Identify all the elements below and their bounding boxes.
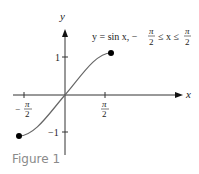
svg-text:π: π — [25, 99, 30, 109]
svg-text:y = sin x, −: y = sin x, − — [92, 31, 138, 42]
endpoint-left — [16, 133, 22, 139]
svg-text:2: 2 — [149, 37, 154, 47]
y-axis-label: y — [59, 10, 65, 22]
svg-text:2: 2 — [102, 109, 107, 119]
svg-text:π: π — [185, 26, 190, 36]
y-tick-label-1: 1 — [55, 52, 60, 63]
x-axis-label: x — [185, 88, 191, 100]
endpoint-right — [108, 50, 114, 56]
svg-text:−: − — [15, 104, 20, 114]
y-axis-arrow-icon — [62, 29, 68, 37]
svg-text:π: π — [149, 26, 154, 36]
sine-graph: y x 1 −1 π 2 − π 2 y = sin x, − π 2 ≤ x … — [0, 0, 199, 174]
svg-text:2: 2 — [185, 37, 190, 47]
figure-caption: Figure 1 — [12, 152, 60, 166]
y-tick-label-neg1: −1 — [48, 127, 59, 138]
x-axis-arrow-icon — [175, 92, 183, 98]
x-tick-label-pi-2: π 2 — [101, 99, 109, 119]
svg-text:≤ x ≤: ≤ x ≤ — [158, 31, 179, 42]
svg-text:π: π — [102, 99, 107, 109]
equation-label: y = sin x, − π 2 ≤ x ≤ π 2 — [92, 26, 191, 47]
x-tick-label-neg-pi-2: − π 2 — [15, 99, 32, 119]
svg-text:2: 2 — [25, 109, 30, 119]
